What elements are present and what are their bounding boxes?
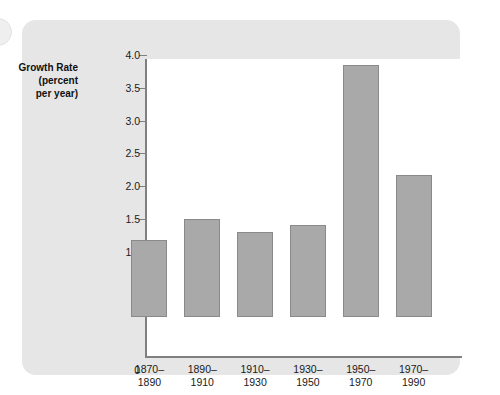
y-tick-mark [139,55,147,56]
y-tick-mark [139,88,147,89]
y-tick-mark [139,219,147,220]
bar [131,240,167,317]
y-tick-label: 2.5 [108,147,140,159]
x-tick-label: 1910– 1930 [229,363,282,389]
y-tick-label: 2.0 [108,180,140,192]
x-axis-line [145,356,462,358]
x-tick-label: 1970– 1990 [387,363,440,389]
y-tick-label: 1.5 [108,213,140,225]
bar [343,65,379,317]
bar [184,219,220,317]
decorative-circle [0,18,12,46]
y-tick-mark [139,153,147,154]
bar [237,232,273,317]
figure-card: Growth Rate (percent per year) 1.01.52.0… [22,20,460,375]
y-axis-title: Growth Rate (percent per year) [0,61,78,100]
x-tick-label: 1950– 1970 [334,363,387,389]
bar [290,225,326,317]
y-tick-label: 3.5 [108,82,140,94]
bar [396,175,432,317]
x-tick-label: 1930– 1950 [282,363,335,389]
x-tick-label: 1890– 1910 [176,363,229,389]
x-tick-label: 1870– 1890 [123,363,176,389]
y-tick-mark [139,121,147,122]
y-tick-label: 4.0 [108,49,140,61]
y-tick-label: 3.0 [108,115,140,127]
y-tick-mark [139,186,147,187]
